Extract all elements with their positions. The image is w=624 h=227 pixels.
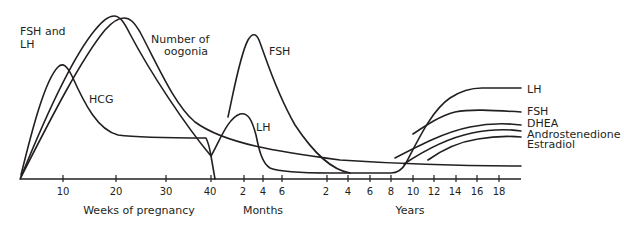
tick-label: 10	[407, 186, 420, 197]
hormone-timeline-chart: 10 20 30 40 2 4 6 2 4 6 8 10 12 14 16 18…	[0, 0, 624, 227]
estradiol-label: Estradiol	[527, 138, 575, 151]
months-axis-label: Months	[243, 204, 283, 217]
lh-puberty-label: LH	[527, 83, 541, 96]
tick-label: 8	[388, 186, 394, 197]
weeks-ticks: 10 20 30 40	[57, 175, 217, 197]
fsh-and-lh-label-line2: LH	[20, 38, 34, 51]
tick-label: 12	[428, 186, 441, 197]
tick-label: 14	[449, 186, 462, 197]
fsh-and-lh-label: FSH and	[20, 25, 66, 38]
tick-label: 6	[279, 186, 285, 197]
tick-label: 6	[367, 186, 373, 197]
tick-label: 20	[110, 186, 123, 197]
tick-label: 40	[204, 186, 217, 197]
weeks-axis-label: Weeks of pregnancy	[83, 204, 195, 217]
tick-label: 4	[345, 186, 351, 197]
tick-label: 30	[160, 186, 173, 197]
lh-infant-label: LH	[256, 121, 270, 134]
oogonia-label-line2: oogonia	[164, 45, 208, 58]
tick-label: 18	[493, 186, 506, 197]
tick-label: 2	[323, 186, 329, 197]
tick-label: 4	[260, 186, 266, 197]
dhea-curve	[395, 124, 521, 158]
tick-label: 2	[240, 186, 246, 197]
months-ticks: 2 4 6	[240, 175, 285, 197]
hcg-label: HCG	[89, 93, 113, 106]
tick-label: 10	[57, 186, 70, 197]
fsh-infant-label: FSH	[269, 45, 290, 58]
estradiol-curve	[428, 136, 521, 160]
tick-label: 16	[471, 186, 484, 197]
years-axis-label: Years	[394, 204, 424, 217]
years-ticks: 2 4 6 8 10 12 14 16 18	[323, 175, 506, 197]
